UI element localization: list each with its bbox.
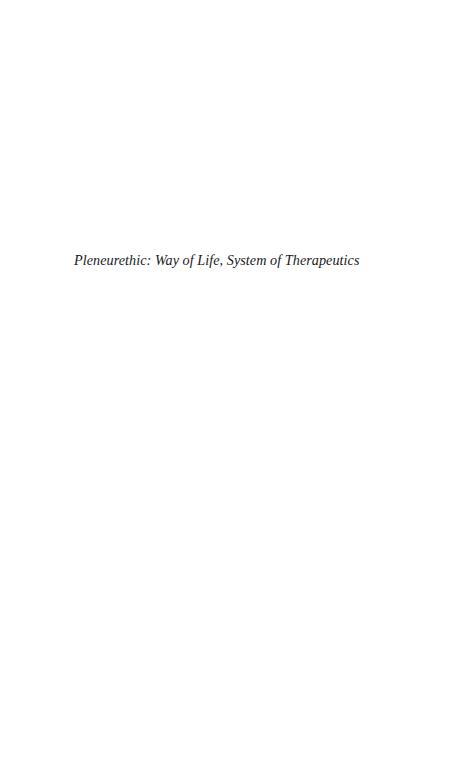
- book-page: Pleneurethic: Way of Life, System of The…: [0, 0, 469, 768]
- half-title: Pleneurethic: Way of Life, System of The…: [74, 252, 359, 268]
